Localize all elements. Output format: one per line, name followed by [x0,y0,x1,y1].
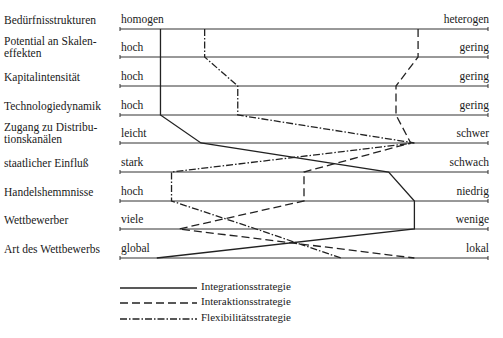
profile-chart [0,0,503,338]
